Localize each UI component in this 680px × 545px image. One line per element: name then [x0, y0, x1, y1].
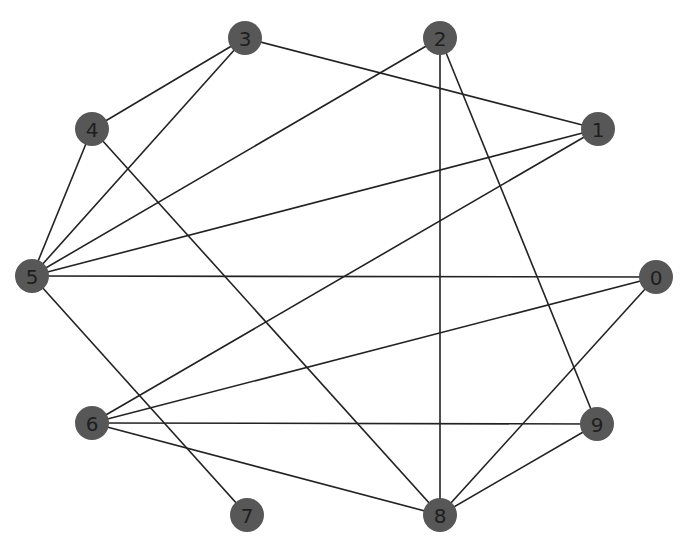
node-3: 3 — [228, 21, 262, 55]
node-0: 0 — [639, 260, 673, 294]
edge-3-4 — [92, 38, 245, 129]
edge-5-0 — [32, 276, 656, 277]
edge-0-6 — [92, 277, 656, 423]
edge-4-8 — [92, 129, 440, 515]
node-9: 9 — [580, 407, 614, 441]
node-1: 1 — [581, 112, 615, 146]
edge-6-9 — [92, 423, 597, 424]
edge-9-8 — [440, 424, 597, 515]
node-2: 2 — [423, 21, 457, 55]
edge-3-5 — [32, 38, 245, 276]
node-label: 0 — [650, 266, 663, 290]
node-label: 8 — [434, 504, 447, 528]
node-8: 8 — [423, 498, 457, 532]
node-label: 3 — [239, 27, 252, 51]
edge-2-5 — [32, 38, 440, 276]
node-5: 5 — [15, 259, 49, 293]
node-7: 7 — [230, 498, 264, 532]
edge-6-8 — [92, 423, 440, 515]
node-label: 6 — [86, 412, 99, 436]
edges-layer — [32, 38, 656, 515]
node-label: 1 — [592, 118, 605, 142]
node-label: 2 — [434, 27, 447, 51]
edge-5-7 — [32, 276, 247, 515]
node-label: 5 — [26, 265, 39, 289]
edge-0-8 — [440, 277, 656, 515]
node-label: 9 — [591, 413, 604, 437]
node-4: 4 — [75, 112, 109, 146]
network-graph: 0123456789 — [0, 0, 680, 545]
edge-1-5 — [32, 129, 598, 276]
edge-2-9 — [440, 38, 597, 424]
edge-4-5 — [32, 129, 92, 276]
node-label: 4 — [86, 118, 99, 142]
edge-3-1 — [245, 38, 598, 129]
node-6: 6 — [75, 406, 109, 440]
node-label: 7 — [241, 504, 254, 528]
